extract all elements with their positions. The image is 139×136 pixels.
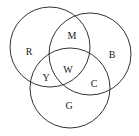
circle-green: [30, 48, 110, 128]
label-y: Y: [42, 73, 49, 83]
label-g: G: [65, 101, 72, 111]
label-r: R: [26, 47, 33, 57]
label-m: M: [68, 31, 77, 41]
venn-diagram: R M B Y W C G: [0, 0, 139, 136]
label-b: B: [109, 50, 116, 60]
label-w: W: [63, 65, 72, 75]
label-c: C: [91, 79, 98, 89]
